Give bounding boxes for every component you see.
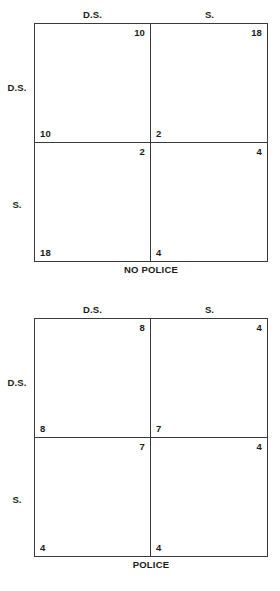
row-payoff: 8	[40, 423, 45, 434]
column-headers: D.S. S.	[34, 302, 268, 317]
matrix-cell-ds-s: 4 7	[151, 319, 267, 438]
matrix-cell-ds-ds: 8 8	[35, 319, 151, 438]
row-payoff: 4	[40, 542, 45, 553]
row-payoff: 18	[40, 247, 51, 258]
row-payoff: 2	[156, 128, 161, 139]
payoff-matrix-no-police: D.S. S. D.S. S. 10 10 18 2 2 18 4 4 NO P…	[0, 0, 280, 295]
payoff-matrix-police: D.S. S. D.S. S. 8 8 4 7 7 4 4 4 POLICE	[0, 295, 280, 591]
row-payoff: 4	[156, 542, 161, 553]
matrix-cell-ds-s: 18 2	[151, 24, 267, 143]
column-header-s: S.	[151, 302, 268, 317]
matrix-cell-s-s: 4 4	[151, 438, 267, 557]
matrix-caption: POLICE	[34, 559, 268, 570]
row-header-ds: D.S.	[3, 377, 31, 388]
row-payoff: 10	[40, 128, 51, 139]
column-payoff: 4	[257, 146, 262, 157]
column-header-s: S.	[151, 7, 268, 22]
column-header-ds: D.S.	[34, 7, 151, 22]
column-payoff: 4	[257, 322, 262, 333]
matrix-cell-ds-ds: 10 10	[35, 24, 151, 143]
column-payoff: 10	[134, 27, 145, 38]
column-payoff: 2	[140, 146, 145, 157]
matrix-grid: 10 10 18 2 2 18 4 4	[34, 23, 268, 262]
column-payoff: 7	[140, 441, 145, 452]
row-header-ds: D.S.	[3, 82, 31, 93]
row-header-s: S.	[3, 494, 31, 505]
row-payoff: 7	[156, 423, 161, 434]
matrix-grid: 8 8 4 7 7 4 4 4	[34, 318, 268, 557]
matrix-cell-s-ds: 7 4	[35, 438, 151, 557]
matrix-cell-s-s: 4 4	[151, 143, 267, 262]
row-payoff: 4	[156, 247, 161, 258]
column-header-ds: D.S.	[34, 302, 151, 317]
matrix-caption: NO POLICE	[34, 264, 268, 275]
column-payoff: 8	[140, 322, 145, 333]
matrix-cell-s-ds: 2 18	[35, 143, 151, 262]
column-payoff: 4	[257, 441, 262, 452]
column-headers: D.S. S.	[34, 7, 268, 22]
column-payoff: 18	[251, 27, 262, 38]
row-header-s: S.	[3, 199, 31, 210]
